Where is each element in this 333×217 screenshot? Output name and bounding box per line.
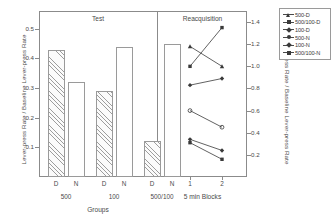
- legend-item-label: 500/100-D: [295, 19, 320, 25]
- bar-500-D: [48, 50, 65, 177]
- diamond-marker-icon: [282, 42, 295, 49]
- square-marker-icon: [282, 49, 295, 56]
- legend-item-500-100-N: 500/100-N: [282, 49, 329, 57]
- legend-item-label: 500-D: [295, 12, 310, 18]
- bar-100-N: [116, 47, 133, 177]
- bar-500-100-D: [144, 141, 161, 177]
- legend-item-500-100-D: 500/100-D: [282, 19, 329, 27]
- left-y-tick-label: 0.1: [12, 143, 34, 150]
- triangle-marker-icon: [282, 11, 295, 18]
- diamond-marker-icon: [282, 26, 295, 33]
- legend-item-label: 500-N: [295, 35, 310, 41]
- right-y-tick-mark: [247, 133, 251, 134]
- blocks-axis-title: 5 min Blocks: [158, 193, 247, 200]
- left-y-tick-mark: [35, 29, 39, 30]
- legend: 500-D500/100-D100-D500-N100-N500/100-N: [279, 8, 331, 60]
- figure-root: Lever-press Rate / Baseline Lever-press …: [0, 0, 333, 217]
- bar-100-D: [96, 91, 113, 177]
- group-label-500: 500: [43, 193, 89, 200]
- bar-500-100-N: [164, 44, 181, 177]
- right-y-tick-mark: [247, 22, 251, 23]
- right-y-tick-mark: [247, 155, 251, 156]
- right-y-tick-label: 1.4: [251, 18, 273, 25]
- right-y-tick-label: 0.8: [251, 84, 273, 91]
- right-y-tick-mark: [247, 88, 251, 89]
- x-tick-label-condition: D: [145, 180, 159, 187]
- right-y-tick-label: 0.2: [251, 151, 273, 158]
- left-y-tick-label: 0.5: [12, 25, 34, 32]
- bar-500-N: [68, 82, 85, 177]
- groups-axis-title: Groups: [39, 206, 157, 213]
- right-y-tick-mark: [247, 111, 251, 112]
- x-tick-label-condition: D: [49, 180, 63, 187]
- group-label-100: 100: [91, 193, 137, 200]
- left-y-tick-mark: [35, 88, 39, 89]
- left-y-tick-label: 0.4: [12, 54, 34, 61]
- block-tick-mark: [222, 177, 223, 180]
- left-y-tick-mark: [35, 58, 39, 59]
- legend-item-500-N: 500-N: [282, 34, 329, 42]
- right-y-tick-mark: [247, 66, 251, 67]
- legend-item-label: 500/100-N: [295, 50, 320, 56]
- test-panel-title: Test: [39, 15, 157, 22]
- x-tick-label-condition: N: [165, 180, 179, 187]
- right-y-tick-label: 1.2: [251, 40, 273, 47]
- x-tick-label-condition: N: [117, 180, 131, 187]
- square-marker-icon: [282, 19, 295, 26]
- right-y-tick-label: 0.6: [251, 107, 273, 114]
- circle-marker-icon: [282, 34, 295, 41]
- legend-item-500-D: 500-D: [282, 11, 329, 19]
- block-tick-label: 1: [183, 180, 197, 187]
- block-tick-label: 2: [215, 180, 229, 187]
- x-tick-label-condition: D: [97, 180, 111, 187]
- left-y-tick-label: 0.2: [12, 114, 34, 121]
- legend-item-label: 100-N: [295, 42, 310, 48]
- legend-item-100-D: 100-D: [282, 26, 329, 34]
- right-y-tick-label: 0.4: [251, 129, 273, 136]
- left-y-axis-title: Lever-press Rate / Baseline Lever-press …: [20, 25, 27, 175]
- right-y-tick-mark: [247, 44, 251, 45]
- left-y-tick-label: 0.3: [12, 84, 34, 91]
- x-tick-label-condition: N: [69, 180, 83, 187]
- reacquisition-panel-title: Reacquisition: [158, 15, 247, 22]
- left-y-tick-mark: [35, 118, 39, 119]
- right-y-tick-label: 1.0: [251, 62, 273, 69]
- left-y-tick-mark: [35, 147, 39, 148]
- block-tick-mark: [190, 177, 191, 180]
- legend-item-100-N: 100-N: [282, 41, 329, 49]
- legend-item-label: 100-D: [295, 27, 310, 33]
